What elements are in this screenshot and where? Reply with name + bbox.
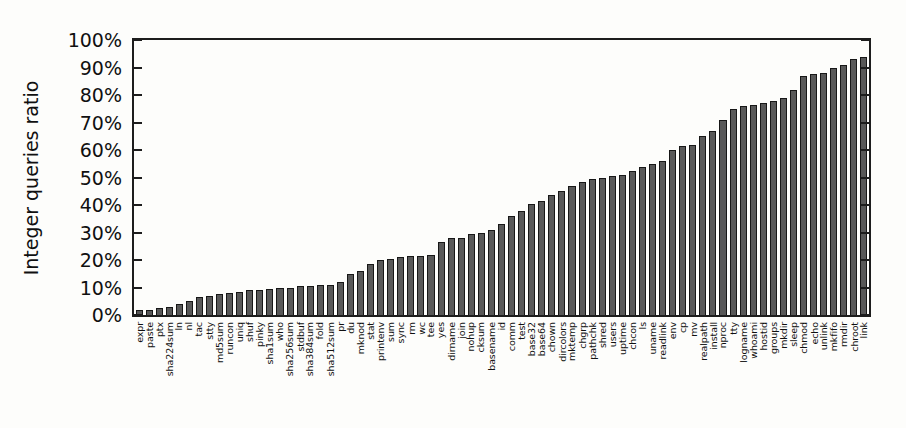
- bar-unlink: [820, 73, 827, 315]
- x-tick-label: mv: [687, 322, 698, 337]
- y-tick-mark: [861, 177, 869, 179]
- y-tick-label: 70%: [0, 112, 122, 134]
- bar-sleep: [790, 90, 797, 316]
- y-tick-label: 50%: [0, 167, 122, 189]
- y-tick-mark: [861, 259, 869, 261]
- x-tick-label: uname: [647, 322, 658, 354]
- bar-groups: [770, 101, 777, 316]
- y-tick-mark: [134, 149, 142, 151]
- y-tick-mark: [134, 122, 142, 124]
- bar-runcon: [226, 293, 233, 315]
- y-tick-label: 60%: [0, 139, 122, 161]
- bar-dirname: [448, 238, 455, 315]
- y-tick-mark: [134, 204, 142, 206]
- y-tick-label: 100%: [0, 29, 122, 51]
- bar-sha256sum: [287, 288, 294, 316]
- y-tick-mark: [861, 287, 869, 289]
- bar-comm: [508, 216, 515, 315]
- bar-mkfifo: [830, 68, 837, 316]
- bar-sum: [387, 259, 394, 315]
- bar-yes: [438, 242, 445, 315]
- bar-nohup: [468, 234, 475, 315]
- bar-shuf: [246, 290, 253, 315]
- bar-tee: [427, 255, 434, 316]
- bar-logname: [740, 106, 747, 315]
- x-tick-label: cp: [677, 322, 688, 333]
- y-tick-mark: [861, 67, 869, 69]
- y-tick-mark: [861, 122, 869, 124]
- y-tick-mark: [861, 204, 869, 206]
- bar-sha224sum: [166, 307, 173, 315]
- bar-du: [347, 274, 354, 315]
- x-tick-label: chmod: [798, 322, 809, 354]
- bar-cksum: [478, 233, 485, 316]
- y-tick-mark: [861, 314, 869, 316]
- y-tick-label: 20%: [0, 249, 122, 271]
- y-tick-mark: [861, 149, 869, 151]
- bar-cp: [679, 146, 686, 315]
- x-tick-label: shred: [597, 322, 608, 348]
- bar-rmdir: [840, 65, 847, 315]
- bar-realpath: [699, 136, 706, 315]
- bar-who: [276, 288, 283, 316]
- bar-hostid: [760, 103, 767, 315]
- x-tick-label: chcon: [627, 322, 638, 350]
- bar-printenv: [377, 260, 384, 315]
- bar-wc: [417, 256, 424, 315]
- bar-tty: [730, 109, 737, 315]
- y-tick-mark: [134, 39, 142, 41]
- bar-sha512sum: [327, 285, 334, 315]
- y-tick-mark: [861, 232, 869, 234]
- x-tick-label: fold: [315, 322, 326, 339]
- y-tick-label: 30%: [0, 222, 122, 244]
- bar-nl: [186, 301, 193, 315]
- bar-stat: [367, 264, 374, 315]
- bar-mknod: [357, 271, 364, 315]
- bar-chroot: [850, 59, 857, 315]
- bar-users: [609, 176, 616, 315]
- bar-chgrp: [579, 182, 586, 315]
- bar-install: [709, 131, 716, 315]
- plot-area: [132, 38, 871, 317]
- x-tick-label: pathchk: [587, 322, 598, 360]
- bar-pinky: [256, 290, 263, 315]
- bar-stdbuf: [297, 286, 304, 315]
- bar-sha1sum: [266, 289, 273, 315]
- y-tick-mark: [134, 287, 142, 289]
- bar-tac: [196, 297, 203, 315]
- bar-chart: Integer queries ratio 0%10%20%30%40%50%6…: [0, 0, 906, 428]
- bar-echo: [810, 74, 817, 315]
- bar-chown: [548, 195, 555, 315]
- y-tick-label: 10%: [0, 277, 122, 299]
- bar-stty: [206, 296, 213, 315]
- y-tick-mark: [134, 232, 142, 234]
- y-tick-mark: [134, 177, 142, 179]
- bar-ptx: [156, 308, 163, 315]
- bar-uptime: [619, 175, 626, 315]
- bar-sync: [397, 257, 404, 315]
- bar-chcon: [629, 171, 636, 315]
- y-tick-mark: [134, 67, 142, 69]
- x-tick-label: basename: [486, 322, 497, 371]
- y-tick-label: 90%: [0, 57, 122, 79]
- bar-mv: [689, 145, 696, 316]
- y-tick-label: 0%: [0, 304, 122, 326]
- x-tick-label: realpath: [697, 322, 708, 361]
- x-tick-label: rm: [405, 322, 416, 335]
- bar-rm: [407, 256, 414, 315]
- x-tick-label: ptx: [154, 322, 165, 337]
- x-tick-label: sync: [395, 322, 406, 343]
- bar-pathchk: [589, 179, 596, 315]
- bar-mkdir: [780, 98, 787, 315]
- y-tick-label: 80%: [0, 84, 122, 106]
- bar-pr: [337, 282, 344, 315]
- x-tick-label: rmdir: [838, 322, 849, 347]
- bar-sha384sum: [307, 286, 314, 315]
- bar-nproc: [719, 120, 726, 315]
- bar-base32: [528, 204, 535, 315]
- bar-shred: [599, 178, 606, 316]
- bar-mktemp: [568, 186, 575, 315]
- bar-ln: [176, 304, 183, 315]
- bar-readlink: [659, 161, 666, 315]
- bar-join: [458, 238, 465, 315]
